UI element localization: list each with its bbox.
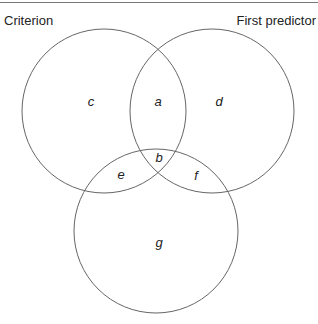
region-label-e: e	[117, 167, 124, 182]
region-labels: cadbefg	[88, 94, 224, 250]
region-label-d: d	[215, 94, 223, 109]
region-label-b: b	[155, 150, 162, 165]
first-predictor-circle	[130, 29, 294, 193]
venn-circles	[22, 29, 294, 313]
second-predictor-circle	[74, 149, 238, 313]
region-label-c: c	[88, 94, 95, 109]
region-label-a: a	[154, 94, 161, 109]
venn-diagram: cadbefg	[0, 0, 318, 324]
criterion-circle	[22, 29, 186, 193]
region-label-g: g	[155, 235, 163, 250]
region-label-f: f	[194, 168, 199, 183]
